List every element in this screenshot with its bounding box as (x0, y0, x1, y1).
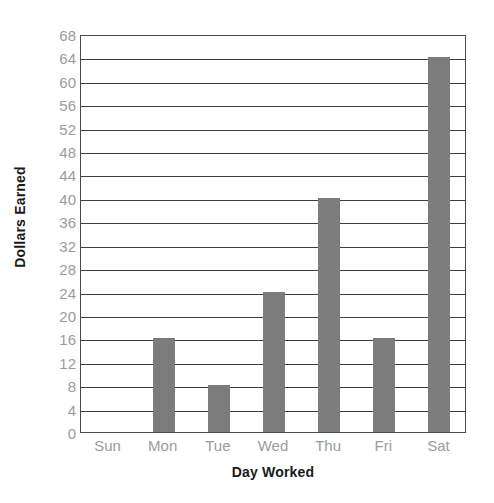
x-axis-title: Day Worked (80, 464, 466, 480)
bar-slot (412, 36, 467, 432)
x-axis-tick-label: Tue (205, 437, 230, 455)
bar (373, 338, 395, 432)
bar-slot (357, 36, 412, 432)
bar-slot (81, 36, 136, 432)
y-axis-tick-label: 44 (36, 168, 76, 183)
y-axis-tick-label: 24 (36, 285, 76, 300)
y-axis-tick-label: 56 (36, 98, 76, 113)
y-axis-tick-label: 0 (36, 426, 76, 441)
plot-area (80, 35, 466, 433)
bar (208, 385, 230, 432)
y-axis-tick-labels: 048121620242832364044485256606468 (36, 35, 76, 433)
bar (153, 338, 175, 432)
y-axis-tick-label: 68 (36, 28, 76, 43)
x-axis-tick-labels: SunMonTueWedThuFriSat (80, 437, 466, 463)
y-axis-tick-label: 8 (36, 379, 76, 394)
y-axis-tick-label: 64 (36, 51, 76, 66)
bars-group (81, 36, 465, 432)
x-axis-tick-label: Sat (427, 437, 450, 455)
y-axis-tick-label: 12 (36, 355, 76, 370)
bar-slot (191, 36, 246, 432)
x-axis-tick-label: Fri (375, 437, 393, 455)
y-axis-tick-label: 4 (36, 402, 76, 417)
bar-slot (136, 36, 191, 432)
y-axis-tick-label: 60 (36, 74, 76, 89)
y-axis-tick-label: 36 (36, 215, 76, 230)
bar (263, 292, 285, 432)
x-axis-tick-label: Wed (258, 437, 289, 455)
y-axis-tick-label: 28 (36, 262, 76, 277)
bar (318, 198, 340, 432)
y-axis-tick-label: 32 (36, 238, 76, 253)
y-axis-tick-label: 16 (36, 332, 76, 347)
y-axis-title: Dollars Earned (0, 0, 40, 433)
x-axis-tick-label: Mon (148, 437, 177, 455)
bar (428, 57, 450, 432)
y-axis-title-text: Dollars Earned (12, 166, 28, 268)
bar-slot (246, 36, 301, 432)
x-axis-tick-label: Thu (315, 437, 341, 455)
y-axis-tick-label: 20 (36, 308, 76, 323)
bar-slot (302, 36, 357, 432)
x-axis-tick-label: Sun (94, 437, 121, 455)
y-axis-tick-label: 52 (36, 121, 76, 136)
y-axis-tick-label: 40 (36, 191, 76, 206)
bar-chart: Dollars Earned 0481216202428323640444852… (0, 0, 494, 503)
y-axis-tick-label: 48 (36, 145, 76, 160)
